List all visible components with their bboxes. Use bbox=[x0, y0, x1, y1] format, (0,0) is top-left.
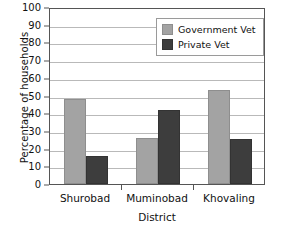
bar-group bbox=[64, 9, 109, 184]
y-axis-tick-label: 50 bbox=[28, 92, 41, 102]
x-axis-category-label: Shurobad bbox=[60, 192, 110, 204]
legend: Government Vet Private Vet bbox=[156, 18, 264, 56]
x-axis-category-label: Khovaling bbox=[203, 192, 255, 204]
y-axis-tick-label: 20 bbox=[28, 145, 41, 155]
bar-government-vet-muminobad bbox=[136, 138, 158, 184]
bar-government-vet-khovaling bbox=[208, 90, 230, 184]
y-axis-tick-label: 0 bbox=[35, 180, 41, 190]
y-axis-tick-label: 60 bbox=[28, 74, 41, 84]
y-axis-tick-label: 30 bbox=[28, 127, 41, 137]
y-axis-tick-label: 40 bbox=[28, 109, 41, 119]
plot-area: Government Vet Private Vet bbox=[49, 8, 265, 185]
bar-private-vet-khovaling bbox=[230, 139, 252, 184]
x-axis-title: District bbox=[49, 211, 265, 223]
x-axis-tick-mark bbox=[193, 185, 194, 190]
legend-swatch-icon-private-vet bbox=[162, 39, 173, 50]
y-axis-tick-label: 100 bbox=[22, 3, 41, 13]
x-axis-tick-mark bbox=[121, 185, 122, 190]
legend-swatch-icon-government-vet bbox=[162, 24, 173, 35]
y-axis-tick-label: 80 bbox=[28, 38, 41, 48]
x-axis-category-label: Muminobad bbox=[126, 192, 188, 204]
y-axis-ticks: 0102030405060708090100 bbox=[0, 8, 49, 185]
y-axis-tick-label: 10 bbox=[28, 162, 41, 172]
legend-item-private-vet: Private Vet bbox=[162, 38, 256, 51]
bar-private-vet-muminobad bbox=[158, 110, 180, 184]
legend-label-government-vet: Government Vet bbox=[178, 25, 256, 35]
x-axis-ticks bbox=[49, 185, 265, 191]
legend-label-private-vet: Private Vet bbox=[178, 40, 229, 50]
bar-private-vet-shurobad bbox=[86, 156, 108, 184]
x-axis-category-labels: ShurobadMuminobadKhovaling bbox=[49, 192, 265, 206]
y-axis-tick-label: 90 bbox=[28, 21, 41, 31]
y-axis-tick-label: 70 bbox=[28, 56, 41, 66]
bar-chart: Percentage of households 010203040506070… bbox=[0, 0, 288, 233]
bar-government-vet-shurobad bbox=[64, 99, 86, 184]
legend-item-government-vet: Government Vet bbox=[162, 23, 256, 36]
